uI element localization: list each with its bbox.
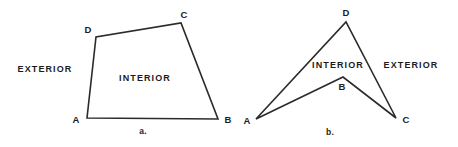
- vertex-label-b-D: D: [342, 7, 349, 18]
- polygon-b-outline: [256, 22, 396, 119]
- region-label-a-interior: INTERIOR: [119, 73, 171, 83]
- figure-container: A B C D EXTERIOR INTERIOR a. A B C D INT…: [0, 0, 458, 147]
- vertex-label-a-D: D: [84, 24, 91, 35]
- vertex-label-a-A: A: [72, 114, 79, 125]
- region-label-b-interior: INTERIOR: [312, 60, 364, 70]
- vertex-label-b-A: A: [243, 115, 250, 126]
- vertex-label-a-B: B: [224, 114, 231, 125]
- polygon-a-outline: [87, 23, 218, 119]
- vertex-label-b-C: C: [402, 114, 409, 125]
- region-label-a-exterior: EXTERIOR: [18, 64, 73, 74]
- region-label-b-exterior: EXTERIOR: [384, 60, 439, 70]
- vertex-label-b-B: B: [338, 81, 345, 92]
- caption-panel-b: b.: [326, 127, 334, 137]
- vertex-label-a-C: C: [180, 9, 187, 20]
- caption-panel-a: a.: [139, 126, 147, 136]
